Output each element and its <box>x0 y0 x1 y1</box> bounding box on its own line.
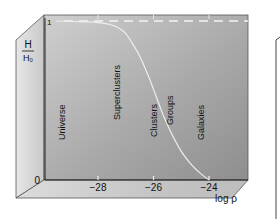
annotation-label: Clusters <box>149 103 159 137</box>
adjacent-panel-edge <box>276 37 280 219</box>
y-axis-label-denominator: H₀ <box>23 53 33 63</box>
x-tick-label: −28 <box>90 182 107 193</box>
x-tick-label: −26 <box>145 182 162 193</box>
annotation-label: Groups <box>165 95 175 125</box>
annotation-label: Superclusters <box>112 64 122 120</box>
annotation-label: Universe <box>57 104 67 140</box>
y-tick-label-1: 1 <box>47 18 52 27</box>
y-tick-label-0: 0 <box>34 175 40 186</box>
x-axis-label: log ρ <box>215 193 237 204</box>
plot-area <box>44 15 248 180</box>
annotation-label: Galaxies <box>196 104 206 140</box>
chart-canvas: 1 −28 −26 −24 0 log ρ H H₀ UniverseSuper… <box>0 0 280 219</box>
y-axis-label-numerator: H <box>24 39 31 50</box>
x-tick-label: −24 <box>201 182 218 193</box>
